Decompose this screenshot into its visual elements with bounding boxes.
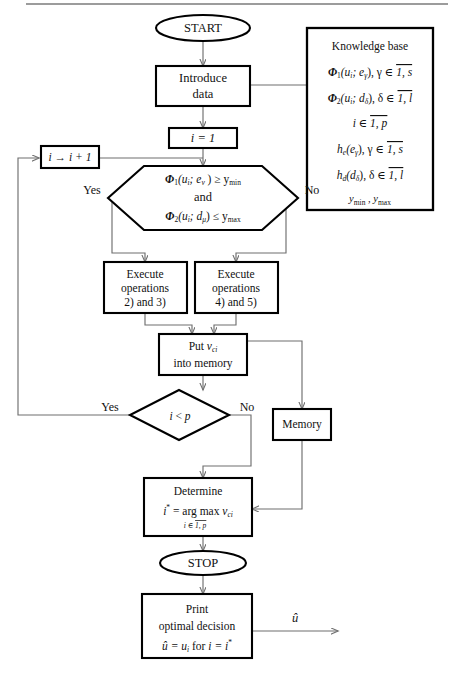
kb-3-tail: ∈ bbox=[356, 117, 370, 129]
dm-le: ) ≤ y bbox=[206, 210, 228, 223]
dm-d: ; d bbox=[190, 210, 203, 222]
knowledge-base-line-3: i ∈ 1, p bbox=[353, 117, 388, 130]
node-increment-i[interactable]: i → i + 1 bbox=[41, 146, 99, 168]
dm-e: ; e bbox=[190, 173, 202, 185]
print-star: * bbox=[228, 638, 232, 647]
node-determine[interactable]: Determine i* = arg max vci i ∈ 1, p bbox=[144, 478, 252, 536]
print-eq-u: = u bbox=[168, 640, 188, 652]
determine-line1: Determine bbox=[174, 485, 223, 497]
knowledge-base-line-2: Φ2(ui; dδ), δ ∈ 1, l bbox=[328, 92, 412, 106]
node-print[interactable]: Print optimal decision û = ui for i = i* bbox=[142, 594, 252, 658]
execute-right-line1: Execute bbox=[217, 268, 254, 280]
node-execute-left[interactable]: Execute operations 2) and 3) bbox=[104, 262, 187, 313]
kb-5-body: (d bbox=[346, 169, 356, 182]
decision-loop-yes-label: Yes bbox=[101, 400, 119, 414]
connector-memory-to-determine bbox=[252, 440, 302, 509]
kb-1-range: 1, s bbox=[396, 66, 413, 79]
loop-lt: < bbox=[173, 410, 185, 422]
knowledge-base-box: Knowledge base Φ1(ui; eγ), γ ∈ 1, s Φ2(u… bbox=[307, 28, 433, 210]
decision-loop-label: i < p bbox=[169, 410, 190, 423]
kb-2-tail: ), δ ∈ bbox=[368, 92, 397, 105]
flowchart-svg: Knowledge base Φ1(ui; eγ), γ ∈ 1, s Φ2(u… bbox=[0, 0, 459, 674]
determine-line2: i* = arg max vci bbox=[163, 503, 233, 519]
print-line1: Print bbox=[186, 603, 209, 615]
print-eq-istar: = i bbox=[212, 640, 229, 652]
increment-i-label: i → i + 1 bbox=[49, 151, 92, 163]
decision-loop-no-label: No bbox=[240, 400, 255, 414]
execute-left-line3: 2) and 3) bbox=[124, 296, 166, 309]
start-label: START bbox=[184, 21, 222, 35]
introduce-data-line1: Introduce bbox=[179, 71, 227, 85]
knowledge-base-line-4: he(eγ), γ ∈ 1, s bbox=[337, 143, 403, 157]
put-memory-line2: into memory bbox=[173, 357, 232, 370]
print-for: for bbox=[189, 640, 208, 652]
kb-ymax-sub: max bbox=[378, 198, 391, 207]
kb-1-body: (u bbox=[341, 66, 351, 79]
node-introduce-data[interactable]: Introduce data bbox=[156, 66, 250, 106]
dm-ymin-sub: min bbox=[229, 178, 241, 187]
kb-2-range: 1, l bbox=[398, 92, 413, 105]
kb-sep: , bbox=[365, 193, 373, 204]
connector-put-to-memory bbox=[247, 341, 302, 409]
kb-2-sym: Φ bbox=[328, 92, 337, 104]
kb-1-tail: ), γ ∈ bbox=[367, 66, 396, 79]
node-execute-right[interactable]: Execute operations 4) and 5) bbox=[195, 262, 278, 313]
kb-5-tail: ), δ ∈ bbox=[359, 169, 388, 182]
node-put-memory[interactable]: Put vci into memory bbox=[159, 334, 247, 375]
decision-main-line2: and bbox=[194, 190, 213, 204]
execute-left-line2: operations bbox=[121, 282, 169, 295]
kb-3-range: 1, p bbox=[370, 117, 388, 130]
det-in: ∈ bbox=[186, 521, 195, 530]
stop-label: STOP bbox=[188, 556, 218, 570]
kb-4-body: (e bbox=[346, 143, 355, 156]
node-stop[interactable]: STOP bbox=[160, 551, 246, 575]
execute-left-line1: Execute bbox=[126, 268, 163, 280]
knowledge-base-line-5: hd(dδ), δ ∈ 1, l bbox=[337, 169, 404, 183]
init-i-label: i = 1 bbox=[191, 131, 215, 145]
print-line3: û = ui for i = i* bbox=[162, 638, 232, 654]
kb-2-body2: ; d bbox=[352, 92, 365, 104]
dm-phi2: Φ bbox=[165, 210, 174, 222]
dm-open: (u bbox=[178, 173, 188, 186]
flowchart-canvas: Knowledge base Φ1(ui; eγ), γ ∈ 1, s Φ2(u… bbox=[0, 0, 459, 674]
loop-p: p bbox=[184, 410, 191, 423]
kb-2-body: (u bbox=[341, 92, 351, 105]
det-range: 1, p bbox=[195, 521, 207, 530]
print-line2: optimal decision bbox=[159, 620, 236, 633]
execute-right-line2: operations bbox=[212, 282, 260, 295]
introduce-data-line2: data bbox=[193, 87, 214, 101]
kb-4-range: 1, s bbox=[387, 143, 404, 156]
node-decision-main[interactable]: Φ1(ui; eν ) ≥ ymin and Φ2(ui; dμ) ≤ ymax… bbox=[83, 166, 319, 230]
decision-main-yes-label: Yes bbox=[83, 183, 101, 197]
memory-label: Memory bbox=[282, 418, 322, 431]
determine-line3: i ∈ 1, p bbox=[184, 521, 207, 530]
kb-1-body2: ; e bbox=[352, 66, 364, 78]
det-v-sub: ci bbox=[227, 510, 232, 519]
put-word: Put bbox=[189, 340, 205, 352]
output-u-hat-label: û bbox=[292, 611, 298, 625]
dm-ge: ) ≥ y bbox=[205, 173, 230, 186]
kb-4-tail: ), γ ∈ bbox=[358, 143, 387, 156]
dm-ymax-sub: max bbox=[228, 215, 241, 224]
dm-phi1: Φ bbox=[165, 173, 174, 185]
connector-exec-right-to-put bbox=[214, 313, 236, 334]
knowledge-base-line-1: Φ1(ui; eγ), γ ∈ 1, s bbox=[328, 66, 413, 80]
decision-main-no-label: No bbox=[305, 183, 320, 197]
node-init-i[interactable]: i = 1 bbox=[169, 128, 237, 148]
kb-5-range: 1, l bbox=[389, 169, 404, 182]
node-memory[interactable]: Memory bbox=[273, 409, 331, 440]
det-argmax: = arg max bbox=[170, 505, 222, 518]
knowledge-base-title: Knowledge base bbox=[332, 40, 408, 53]
connector-exec-left-to-put bbox=[145, 313, 192, 334]
node-start[interactable]: START bbox=[156, 15, 250, 41]
kb-ymin-sub: min bbox=[354, 198, 366, 207]
put-v-sub: ci bbox=[212, 345, 217, 354]
dm-open2: (u bbox=[178, 210, 188, 223]
execute-right-line3: 4) and 5) bbox=[215, 296, 257, 309]
kb-1-sym: Φ bbox=[328, 66, 337, 78]
